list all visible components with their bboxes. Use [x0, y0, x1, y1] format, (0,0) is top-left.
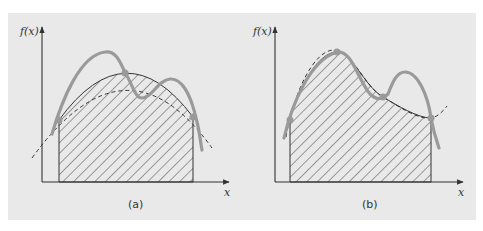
- panel-a: f(x) x (a): [19, 25, 231, 211]
- panel-b-point-1: [334, 49, 341, 56]
- panel-b-x-axis-label: x: [458, 186, 465, 199]
- panel-b-point-0: [287, 117, 294, 124]
- panel-a-point-right: [190, 114, 197, 121]
- panel-a-point-middle: [122, 70, 129, 77]
- panel-b-point-2: [380, 94, 387, 101]
- panel-a-caption: (a): [128, 198, 143, 211]
- panel-b-caption: (b): [362, 198, 378, 211]
- panel-a-point-left: [56, 117, 63, 124]
- integration-figure: f(x) x (a) f(x) x (b): [0, 0, 483, 231]
- panel-a-y-axis-label: f(x): [19, 25, 39, 38]
- panel-b-point-3: [428, 115, 435, 122]
- panel-a-x-axis-label: x: [224, 186, 231, 199]
- panel-b-y-axis-label: f(x): [252, 25, 272, 38]
- panel-a-shaded-area: [59, 73, 193, 182]
- panel-b: f(x) x (b): [252, 25, 465, 211]
